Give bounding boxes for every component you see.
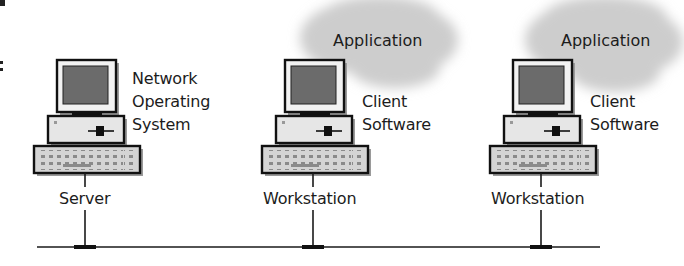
power-light [510,121,513,124]
server-computer-icon [34,60,143,249]
workstation-computer-icon [262,60,371,249]
software-line: Software [362,113,431,136]
drive-button [552,126,560,136]
monitor-screen [519,66,564,104]
software-label: Client Software [362,90,431,136]
software-line: Client [362,90,431,113]
bus-connector [74,245,96,249]
drive-button [96,126,104,136]
software-line: Client [590,90,659,113]
keyboard-spacebar [63,164,91,167]
software-line: System [132,113,210,136]
keyboard-numpad [124,150,137,170]
system-unit-icon [48,116,124,143]
software-line: Software [590,113,659,136]
monitor-screen [63,66,108,104]
cloud-label: Application [561,31,650,51]
power-light [54,121,57,124]
node-label-workstation: Workstation [263,187,356,210]
keyboard-spacebar [291,164,319,167]
cropped-edge-mark [0,68,3,71]
keyboard-numpad [352,150,365,170]
software-label: Client Software [590,90,659,136]
workstation-computer-icon [490,60,599,249]
node-label-server: Server [59,187,110,210]
system-unit-icon [276,116,352,143]
software-label: Network Operating System [132,67,210,136]
node-label-workstation: Workstation [491,187,584,210]
bus-connector [302,245,324,249]
cropped-edge-mark [0,61,3,64]
keyboard-spacebar [519,164,547,167]
bus-connector [530,245,552,249]
software-line: Network [132,67,210,90]
system-unit-icon [504,116,580,143]
monitor-screen [291,66,336,104]
power-light [282,121,285,124]
cropped-edge-mark [0,0,5,6]
cloud-label: Application [333,31,422,51]
software-line: Operating [132,90,210,113]
drive-button [324,126,332,136]
keyboard-numpad [580,150,593,170]
